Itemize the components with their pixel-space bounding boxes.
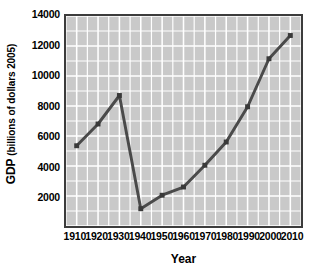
x-axis-title: Year	[64, 252, 303, 266]
x-tick-label: 1920	[85, 230, 108, 242]
x-tick-label: 1930	[107, 230, 130, 242]
plot-area	[64, 14, 303, 228]
x-tick-label: 1950	[150, 230, 173, 242]
y-axis-title-prefix: GDP	[4, 158, 18, 184]
chart-figure: GDP (billions of dollars 2005) 200040006…	[0, 0, 316, 276]
x-tick-label: 2010	[281, 230, 304, 242]
x-tick-label: 2000	[259, 230, 282, 242]
x-tick-label: 1940	[129, 230, 152, 242]
y-axis-title-suffix: (billions of dollars 2005)	[6, 44, 17, 156]
y-tick-label: 12000	[18, 39, 60, 51]
y-axis-tick-labels: 2000400060008000100001200014000	[18, 0, 60, 276]
x-tick-label: 1980	[216, 230, 239, 242]
x-tick-label: 1960	[172, 230, 195, 242]
y-axis-title-text: GDP (billions of dollars 2005)	[4, 44, 18, 184]
y-tick-label: 8000	[18, 100, 60, 112]
x-tick-label: 1970	[194, 230, 217, 242]
y-tick-label: 2000	[18, 191, 60, 203]
y-tick-label: 4000	[18, 161, 60, 173]
data-series-gdp	[66, 16, 301, 226]
x-axis-tick-labels: 1910192019301940195019601970198019902000…	[64, 230, 303, 246]
y-tick-label: 10000	[18, 69, 60, 81]
x-tick-label: 1990	[237, 230, 260, 242]
y-tick-label: 14000	[18, 8, 60, 20]
y-tick-label: 6000	[18, 130, 60, 142]
x-tick-label: 1910	[64, 230, 87, 242]
